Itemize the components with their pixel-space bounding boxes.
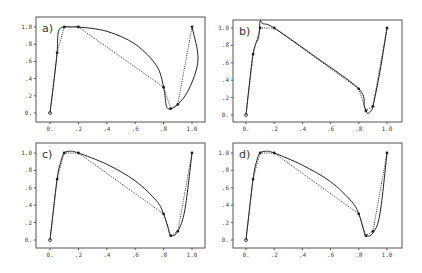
y-tick-label: 1.0 [21,23,32,30]
x-tick-label: .6 [327,125,335,132]
y-tick-label: .4 [25,75,33,82]
x-tick-label: 1.0 [382,125,393,132]
y-tick-label: .2 [25,219,33,226]
plot-frame [36,17,205,122]
interpolating-curve [246,151,387,240]
x-tick-label: .6 [132,251,140,258]
panel-label: d) [239,148,250,161]
y-tick-label: .4 [222,76,230,83]
control-polygon [50,153,192,240]
x-tick-label: .8 [355,125,363,132]
y-tick-label: .8 [222,41,230,48]
control-polygon [246,153,387,240]
control-polygon [246,28,387,115]
y-tick-label: .2 [25,92,33,99]
interpolating-curve [246,20,387,115]
panel-c: 0..2.4.6.81.00..2.4.6.81.0c) [21,143,205,258]
y-tick-label: 0. [222,111,229,118]
y-tick-label: 0. [222,236,229,243]
plot-frame [233,20,402,122]
x-tick-label: 1.0 [382,251,393,258]
x-tick-label: 0. [242,125,249,132]
x-tick-label: .2 [75,125,83,132]
x-tick-label: .4 [103,251,111,258]
panel-a: 0..2.4.6.81.00..2.4.6.81.0a) [21,17,205,132]
x-tick-label: .2 [271,251,279,258]
control-polygon [50,27,192,113]
x-tick-label: 0. [242,251,249,258]
y-tick-label: .8 [25,166,33,173]
y-tick-label: .6 [222,59,230,66]
y-tick-label: 0. [25,109,32,116]
panel-label: a) [42,22,53,35]
y-tick-label: .6 [222,184,230,191]
x-tick-label: .4 [299,125,307,132]
y-tick-label: 1.0 [218,24,229,31]
x-tick-label: .2 [75,251,83,258]
panel-d: 0..2.4.6.81.00..2.4.6.81.0d) [218,143,402,258]
x-tick-label: .4 [299,251,307,258]
x-tick-label: 1.0 [187,251,198,258]
x-tick-label: .4 [103,125,111,132]
x-tick-label: 1.0 [187,125,198,132]
x-tick-label: .8 [355,251,363,258]
y-tick-label: .4 [222,201,230,208]
x-tick-label: .6 [132,125,140,132]
x-tick-label: .6 [327,251,335,258]
y-tick-label: .6 [25,184,33,191]
x-tick-label: .8 [160,251,168,258]
y-tick-label: .2 [222,219,230,226]
y-tick-label: 0. [25,236,32,243]
panel-label: b) [239,25,250,38]
x-tick-label: .2 [271,125,279,132]
interpolating-curve [50,151,192,240]
y-tick-label: 1.0 [21,149,32,156]
y-tick-label: .8 [25,40,33,47]
y-tick-label: .6 [25,57,33,64]
y-tick-label: .8 [222,166,230,173]
x-tick-label: 0. [46,251,53,258]
panel-label: c) [42,148,52,161]
y-tick-label: .4 [25,201,33,208]
figure-4-panel-curves: 0..2.4.6.81.00..2.4.6.81.0a) 0..2.4.6.81… [0,0,422,273]
x-tick-label: .8 [160,125,168,132]
y-tick-label: .2 [222,94,230,101]
x-tick-label: 0. [46,125,53,132]
interpolating-curve [50,27,198,113]
y-tick-label: 1.0 [218,149,229,156]
panel-b: 0..2.4.6.81.00..2.4.6.81.0b) [218,20,402,132]
